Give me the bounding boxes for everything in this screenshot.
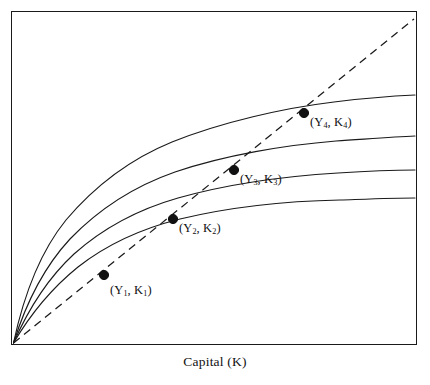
label-1-close: ) [147,283,151,297]
label-3-open: (Y [240,172,253,186]
label-2-sub-b: 2 [212,227,216,236]
label-4-open: (Y [310,115,323,129]
label-4-close: ) [347,115,351,129]
label-3-close: ) [277,172,281,186]
label-2-close: ) [216,221,220,235]
label-2-open: (Y [179,221,192,235]
label-3-sub-b: 3 [273,178,277,187]
data-point-label-1: (Y1, K1) [110,283,152,298]
label-3-mid: , K [258,172,274,186]
label-1-open: (Y [110,283,123,297]
label-4-mid: , K [328,115,344,129]
data-point-label-3: (Y3, K3) [240,172,282,187]
figure-container: (Y1, K1) (Y2, K2) (Y3, K3) (Y4, K4) Capi… [0,0,430,385]
label-4-sub-a: 4 [323,121,327,130]
label-1-sub-a: 1 [123,289,127,298]
label-1-sub-b: 1 [143,289,147,298]
label-1-mid: , K [128,283,144,297]
label-2-sub-a: 2 [192,227,196,236]
plot-frame-border [11,11,417,345]
label-3-sub-a: 3 [253,178,257,187]
x-axis-label: Capital (K) [0,354,430,370]
data-point-label-4: (Y4, K4) [310,115,352,130]
label-2-mid: , K [197,221,213,235]
label-4-sub-b: 4 [343,121,347,130]
data-point-label-2: (Y2, K2) [179,221,221,236]
